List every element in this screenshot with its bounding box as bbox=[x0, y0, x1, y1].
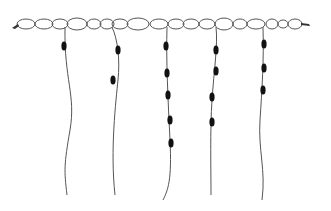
diagram-canvas: Knotted cord diagram (quipu-style): chai… bbox=[0, 0, 331, 211]
bead-knot-icon bbox=[213, 66, 218, 75]
cord-1 bbox=[61, 27, 71, 195]
chain-link bbox=[233, 19, 247, 29]
chain-link bbox=[168, 19, 184, 29]
cord-3 bbox=[163, 27, 174, 200]
chain-link bbox=[247, 19, 265, 29]
cord-line bbox=[260, 27, 264, 200]
horizontal-link-chain bbox=[12, 18, 310, 30]
hanging-cords bbox=[61, 27, 266, 200]
bead-knot-icon bbox=[110, 75, 115, 84]
bead-knot-icon bbox=[163, 41, 168, 50]
cord-5 bbox=[260, 27, 267, 200]
bead-knot-icon bbox=[115, 45, 120, 54]
chain-link bbox=[266, 19, 278, 29]
bead-knot-icon bbox=[164, 68, 169, 77]
bead-knot-icon bbox=[168, 138, 173, 147]
chain-link bbox=[17, 19, 35, 29]
chain-link bbox=[67, 18, 87, 30]
chain-link bbox=[150, 19, 168, 29]
chain-link bbox=[87, 19, 101, 29]
quipu-illustration bbox=[0, 0, 331, 211]
cord-4 bbox=[209, 27, 218, 195]
bead-knot-icon bbox=[213, 45, 218, 54]
chain-link bbox=[278, 20, 288, 28]
cord-line bbox=[163, 27, 171, 200]
bead-knot-icon bbox=[167, 115, 172, 124]
chain-link bbox=[199, 19, 215, 29]
cord-line bbox=[65, 27, 72, 195]
bead-knot-icon bbox=[260, 85, 265, 94]
bead-knot-icon bbox=[61, 41, 66, 50]
chain-link bbox=[35, 19, 53, 29]
bead-knot-icon bbox=[165, 90, 170, 99]
bead-knot-icon bbox=[209, 117, 214, 126]
tassel-right-icon bbox=[301, 23, 310, 26]
tassel-left-icon bbox=[12, 24, 19, 29]
chain-link bbox=[127, 18, 149, 30]
chain-link bbox=[183, 19, 199, 29]
bead-knot-icon bbox=[261, 63, 266, 72]
bead-knot-icon bbox=[261, 39, 266, 48]
cord-2 bbox=[110, 27, 120, 195]
chain-link bbox=[215, 18, 233, 30]
bead-knot-icon bbox=[209, 92, 214, 101]
chain-link bbox=[52, 19, 68, 29]
chain-link bbox=[288, 19, 302, 29]
